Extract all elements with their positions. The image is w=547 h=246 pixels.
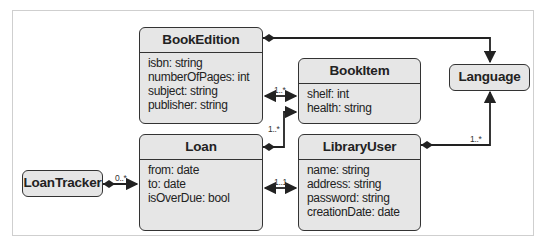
class-loantracker[interactable]: LoanTracker <box>22 170 103 197</box>
attribute: subject: string <box>148 84 262 98</box>
composition-diamond-libraryuser <box>421 141 433 149</box>
multiplicity-loantracker-loan: 0..* <box>115 173 127 183</box>
class-name: Language <box>450 65 529 88</box>
class-name: LoanTracker <box>23 171 102 194</box>
class-name: LibraryUser <box>299 135 420 160</box>
attribute: health: string <box>307 101 420 115</box>
class-bookitem[interactable]: BookItem shelf: int health: string <box>298 58 421 124</box>
attribute: publisher: string <box>148 98 262 112</box>
relationship-lines <box>0 0 547 246</box>
attribute-list: shelf: int health: string <box>299 84 420 115</box>
attribute-list: isbn: string numberOfPages: int subject:… <box>140 53 262 112</box>
attribute: isbn: string <box>148 56 262 70</box>
attribute: name: string <box>307 163 420 177</box>
class-name: Loan <box>140 135 262 160</box>
attribute: shelf: int <box>307 87 420 101</box>
multiplicity-loan-libraryuser: 1..1 <box>274 177 287 187</box>
attribute: to: date <box>148 177 262 191</box>
class-libraryuser[interactable]: LibraryUser name: string address: string… <box>298 134 421 231</box>
attribute-list: from: date to: date isOverDue: bool <box>140 160 262 205</box>
class-language[interactable]: Language <box>449 64 530 91</box>
attribute: address: string <box>307 177 420 191</box>
attribute-list: name: string address: string password: s… <box>299 160 420 219</box>
attribute: creationDate: date <box>307 205 420 219</box>
attribute: from: date <box>148 163 262 177</box>
class-name: BookItem <box>299 59 420 84</box>
attribute: password: string <box>307 191 420 205</box>
multiplicity-libraryuser-language: 1..* <box>470 134 482 144</box>
attribute: numberOfPages: int <box>148 70 262 84</box>
class-name: BookEdition <box>140 28 262 53</box>
class-bookedition[interactable]: BookEdition isbn: string numberOfPages: … <box>139 27 263 124</box>
composition-diamond-bookedition <box>263 34 275 42</box>
composition-diamond-loan <box>263 143 275 151</box>
composition-diamond-loantracker <box>103 180 115 188</box>
multiplicity-bookedition-bookitem: 1..* <box>274 85 286 95</box>
multiplicity-loan-bookitem: 1..* <box>268 124 280 134</box>
attribute: isOverDue: bool <box>148 191 262 205</box>
class-loan[interactable]: Loan from: date to: date isOverDue: bool <box>139 134 263 231</box>
